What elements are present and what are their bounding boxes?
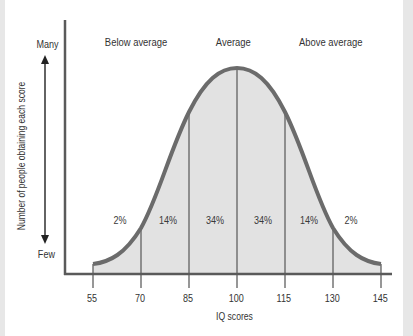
percent-region-1: 2%	[113, 214, 126, 226]
bell-curve-chart	[0, 0, 413, 336]
x-tick-145: 145	[373, 292, 388, 304]
x-tick-70: 70	[135, 292, 145, 304]
y-bottom-label-few: Few	[38, 248, 55, 260]
percent-region-2: 14%	[159, 214, 177, 226]
y-axis-title: Number of people obtaining each score	[16, 82, 27, 230]
category-below-average: Below average	[105, 36, 167, 48]
x-axis-title: IQ scores	[216, 310, 253, 322]
category-above-average: Above average	[299, 36, 362, 48]
percent-region-5: 14%	[300, 214, 318, 226]
x-tick-100: 100	[229, 292, 244, 304]
percent-region-4: 34%	[254, 214, 272, 226]
category-average: Average	[216, 36, 251, 48]
x-tick-115: 115	[277, 292, 291, 304]
percent-region-3: 34%	[206, 214, 224, 226]
many-few-arrow	[41, 55, 49, 244]
x-tick-130: 130	[325, 292, 340, 304]
x-tick-55: 55	[87, 292, 97, 304]
y-top-label-many: Many	[36, 38, 58, 50]
percent-region-6: 2%	[344, 214, 357, 226]
x-tick-85: 85	[183, 292, 193, 304]
